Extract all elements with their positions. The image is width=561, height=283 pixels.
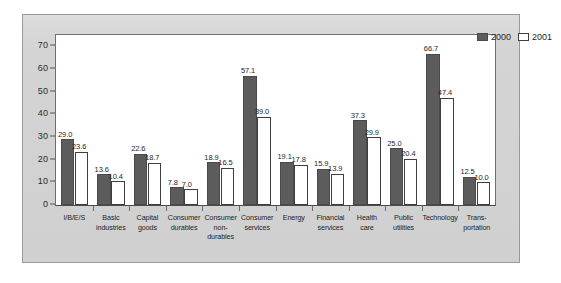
y-axis-tick-label: 40: [38, 108, 48, 118]
bar-group: 25.020.4: [385, 35, 422, 205]
bar-2000: [426, 54, 440, 205]
bar-2001: [294, 165, 308, 205]
bar-group: 7.87.0: [166, 35, 203, 205]
bar-value-label: 37.3: [351, 111, 365, 120]
x-axis-category-label: Trans-portation: [451, 213, 502, 232]
bar-2001: [404, 159, 418, 205]
y-axis-tick-label: 50: [38, 86, 48, 96]
bar-value-label: 47.4: [438, 88, 452, 97]
bar-value-label: 15.9: [314, 159, 328, 168]
bar-value-label: 18.7: [145, 153, 159, 162]
bar-group: 18.916.5: [202, 35, 239, 205]
bar-value-label: 10.4: [109, 172, 123, 181]
bar-group: 19.117.8: [276, 35, 313, 205]
bar-2000: [243, 76, 257, 205]
bar-value-label: 20.4: [401, 149, 415, 158]
x-axis-tick-mark: [458, 206, 459, 211]
bar-value-label: 16.5: [218, 158, 232, 167]
legend-entry-2001: 2001: [518, 32, 552, 42]
legend-label: 2001: [532, 32, 552, 42]
bar-value-label: 39.0: [255, 107, 269, 116]
y-axis-tick-label: 10: [38, 176, 48, 186]
x-axis-category-label-line: Trans-: [451, 213, 502, 223]
chart-figure: 010203040506070 29.023.613.610.422.618.7…: [0, 0, 561, 283]
x-axis-tick-mark: [93, 206, 94, 211]
bar-2000: [207, 162, 221, 205]
bar-value-label: 12.5: [460, 167, 474, 176]
bar-value-label: 29.9: [365, 128, 379, 137]
bar-2000: [317, 169, 331, 205]
bar-2001: [75, 152, 89, 205]
bar-group: 57.139.0: [239, 35, 276, 205]
x-axis-tick-mark: [202, 206, 203, 211]
bar-group: 12.510.0: [458, 35, 495, 205]
x-axis-category-label-line: services: [232, 223, 283, 233]
bar-group: 37.329.9: [349, 35, 386, 205]
y-axis-tick-label: 60: [38, 63, 48, 73]
x-axis-category-label-line: portation: [451, 223, 502, 233]
legend-label: 2000: [491, 32, 511, 42]
legend-swatch-icon: [518, 33, 529, 41]
x-axis-tick-mark: [349, 206, 350, 211]
bar-value-label: 66.7: [424, 44, 438, 53]
bar-value-label: 13.9: [328, 164, 342, 173]
y-axis-tick-label: 0: [43, 199, 48, 209]
y-axis-tick-label: 20: [38, 154, 48, 164]
x-axis-category-label-line: utilities: [378, 223, 429, 233]
chart-legend: 20002001: [474, 31, 555, 43]
bar-value-label: 19.1: [278, 152, 292, 161]
bar-value-label: 10.0: [474, 173, 488, 182]
bar-value-label: 29.0: [58, 130, 72, 139]
bar-2001: [184, 189, 198, 205]
x-axis-tick-mark: [385, 206, 386, 211]
bar-value-label: 23.6: [72, 142, 86, 151]
x-axis: I/B/E/SBasicindustriesCapitalgoodsConsum…: [56, 213, 495, 255]
bar-2001: [221, 168, 235, 205]
bar-value-label: 17.8: [292, 155, 306, 164]
bar-value-label: 13.6: [95, 165, 109, 174]
legend-entry-2000: 2000: [477, 32, 511, 42]
bar-group: 66.747.4: [422, 35, 459, 205]
bar-value-label: 22.6: [131, 144, 145, 153]
bar-value-label: 25.0: [387, 139, 401, 148]
y-axis-tick-label: 30: [38, 131, 48, 141]
x-axis-tick-mark: [276, 206, 277, 211]
bar-2001: [440, 98, 454, 205]
bar-group: 15.913.9: [312, 35, 349, 205]
bar-value-label: 7.0: [182, 180, 192, 189]
bar-2001: [148, 163, 162, 205]
x-axis-category-label-line: durables: [195, 232, 246, 242]
bar-group: 22.618.7: [129, 35, 166, 205]
bar-value-label: 18.9: [204, 153, 218, 162]
bar-series-container: 29.023.613.610.422.618.77.87.018.916.557…: [56, 35, 495, 205]
legend-swatch-icon: [477, 33, 488, 41]
bar-2001: [477, 182, 491, 205]
bar-group: 13.610.4: [93, 35, 130, 205]
x-axis-tick-mark: [239, 206, 240, 211]
bar-2000: [280, 162, 294, 205]
bar-2001: [331, 174, 345, 206]
bar-value-label: 7.8: [168, 178, 178, 187]
x-axis-tick-mark: [166, 206, 167, 211]
bar-group: 29.023.6: [56, 35, 93, 205]
bar-2001: [367, 137, 381, 205]
bar-value-label: 57.1: [241, 66, 255, 75]
bar-2001: [111, 181, 125, 205]
x-axis-tick-mark: [422, 206, 423, 211]
y-axis: 010203040506070: [22, 34, 56, 206]
bar-2000: [170, 187, 184, 205]
x-axis-tick-mark: [129, 206, 130, 211]
y-axis-tick-label: 70: [38, 40, 48, 50]
bar-2001: [257, 117, 271, 205]
x-axis-tick-mark: [312, 206, 313, 211]
